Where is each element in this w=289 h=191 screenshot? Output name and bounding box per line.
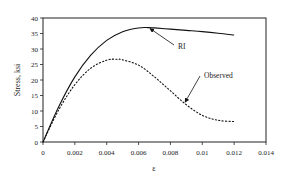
annotation-label-ri: RI xyxy=(178,42,186,51)
y-tick-label: 40 xyxy=(31,15,39,23)
y-tick-label: 35 xyxy=(31,30,39,38)
y-tick-label: 0 xyxy=(35,139,39,147)
x-tick-label: 0 xyxy=(41,149,45,157)
x-tick-label: 0.014 xyxy=(258,149,274,157)
y-axis-title: Stress, ksi xyxy=(13,63,22,96)
x-tick-label: 0.008 xyxy=(163,149,179,157)
y-tick-label: 10 xyxy=(31,108,39,116)
annotation-label-observed: Observed xyxy=(204,71,233,80)
annotations: RIObserved xyxy=(150,29,233,102)
y-tick-label: 5 xyxy=(35,123,39,131)
y-tick-label: 25 xyxy=(31,61,39,69)
x-tick-label: 0.004 xyxy=(99,149,115,157)
y-tick-label: 30 xyxy=(31,46,39,54)
series-ri-line xyxy=(43,28,234,142)
x-tick-label: 0.006 xyxy=(131,149,147,157)
x-tick-label: 0.002 xyxy=(67,149,83,157)
x-tick-label: 0.01 xyxy=(196,149,209,157)
series-layer xyxy=(43,28,234,142)
y-axis-ticks: 0510152025303540 xyxy=(31,15,43,147)
annotation-arrow-observed xyxy=(185,76,200,102)
x-tick-label: 0.012 xyxy=(226,149,242,157)
annotation-arrow-ri xyxy=(150,29,174,45)
y-tick-label: 20 xyxy=(31,77,39,85)
y-tick-label: 15 xyxy=(31,92,39,100)
x-axis-title: ε xyxy=(152,164,156,173)
x-axis-ticks: 00.0020.0040.0060.0080.010.0120.014 xyxy=(41,142,274,157)
plot-frame xyxy=(43,18,266,142)
stress-strain-chart: 0510152025303540 00.0020.0040.0060.0080.… xyxy=(0,0,289,191)
